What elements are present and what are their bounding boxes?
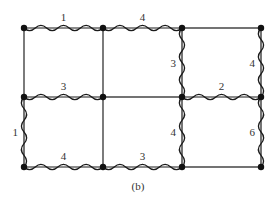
edge-weight-label: 4 [171,126,177,138]
graph-node [258,25,264,31]
graph-node [21,25,27,31]
edge-labels-layer: 14324334146 [13,11,256,162]
edges-layer [21,25,263,169]
edge-weight-label: 4 [250,57,256,69]
graph-node [179,94,185,100]
edge-weight-label: 6 [250,126,256,138]
graph-node [21,94,27,100]
edge-weight-label: 2 [219,80,225,92]
edge-weight-label: 1 [61,11,67,23]
graph-node [258,164,264,170]
figure-caption: (b) [132,180,145,193]
graph-node [100,94,106,100]
graph-node [100,25,106,31]
grid-graph-diagram: 14324334146 (b) [0,0,276,202]
graph-node [258,94,264,100]
graph-node [179,25,185,31]
edge-weight-label: 4 [140,11,146,23]
edge-weight-label: 3 [61,80,67,92]
edge-weight-label: 1 [13,126,19,138]
graph-node [179,164,185,170]
edge-weight-label: 3 [140,150,146,162]
edge-weight-label: 4 [61,150,67,162]
graph-node [21,164,27,170]
edge-weight-label: 3 [171,57,177,69]
graph-node [100,164,106,170]
